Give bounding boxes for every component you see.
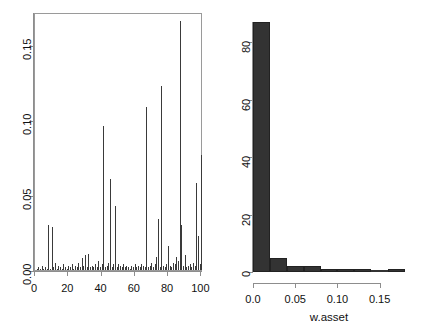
left-x-tick [167, 271, 168, 276]
right-x-tick-label: 0.10 [327, 294, 348, 305]
right-y-tick-label: 80 [241, 41, 252, 53]
right-x-tick [337, 283, 338, 288]
left-x-tick-label: 80 [161, 283, 173, 294]
histogram-bar [337, 269, 354, 272]
histogram-bars [253, 22, 405, 272]
histogram-bar [354, 269, 371, 272]
right-x-tick-label: 0.0 [245, 294, 260, 305]
spike [201, 155, 202, 271]
histogram-bar [304, 266, 321, 272]
right-y-axis-line [252, 22, 253, 272]
spike [115, 206, 116, 271]
left-x-tick [200, 271, 201, 276]
left-x-tick [67, 271, 68, 276]
histogram-bar [270, 258, 287, 272]
right-x-axis [253, 283, 405, 291]
right-x-axis-line [253, 283, 380, 284]
right-y-tick-label: 20 [241, 213, 252, 225]
left-x-tick-label: 100 [191, 283, 209, 294]
histogram-bar [253, 22, 270, 272]
right-x-tick [380, 283, 381, 288]
spike [146, 107, 147, 271]
left-x-tick [34, 271, 35, 276]
x-axis-title-w-asset: w.asset [310, 312, 348, 324]
spike [52, 227, 53, 271]
spike [161, 86, 162, 271]
left-x-tick-label: 0 [31, 283, 37, 294]
right-x-tick-label: 0.15 [369, 294, 390, 305]
right-x-tick-label: 0.05 [285, 294, 306, 305]
right-y-tick-label: 60 [241, 98, 252, 110]
right-x-tick [253, 283, 254, 288]
two-panel-figure: 0.000.050.100.15020406080100 w.asset 020… [0, 0, 427, 335]
asset-weight-index-panel: 0.000.050.100.15020406080100 [0, 0, 214, 335]
left-y-axis-line [33, 13, 34, 271]
left-x-tick [101, 271, 102, 276]
left-x-axis-line [34, 271, 202, 272]
spike [103, 126, 104, 270]
histogram-bar [371, 270, 388, 272]
spike [181, 225, 182, 270]
histogram-bar [388, 269, 405, 272]
left-x-tick [134, 271, 135, 276]
spike-series [35, 14, 201, 270]
left-y-tick-label: 0.10 [22, 114, 33, 135]
left-plot-frame [34, 13, 202, 271]
left-x-tick-label: 20 [61, 283, 73, 294]
left-x-tick-label: 60 [128, 283, 140, 294]
spike [48, 225, 49, 270]
left-x-axis [34, 271, 202, 279]
right-y-axis [246, 22, 253, 272]
histogram-bar [321, 269, 338, 272]
spike [158, 219, 159, 270]
left-y-tick-label: 0.05 [22, 189, 33, 210]
right-x-tick [295, 283, 296, 288]
histogram-bar [287, 266, 304, 272]
left-x-tick-label: 40 [94, 283, 106, 294]
right-y-tick-label: 40 [241, 156, 252, 168]
right-y-tick-label: 0 [241, 271, 252, 277]
left-y-tick-label: 0.15 [22, 39, 33, 60]
spike [110, 179, 111, 271]
